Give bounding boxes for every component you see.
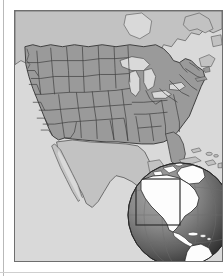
globe-inset — [119, 154, 223, 262]
map-frame — [14, 10, 223, 262]
page-bottom-rule — [0, 272, 223, 273]
region-newfoundland — [211, 35, 222, 47]
page-left-rule — [3, 0, 4, 276]
page-canvas — [0, 0, 223, 276]
